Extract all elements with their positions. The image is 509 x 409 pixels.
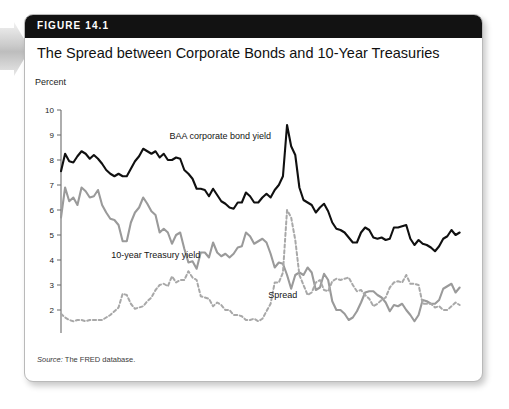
- y-tick-label: 1: [50, 331, 55, 333]
- y-tick-label: 10: [45, 106, 54, 115]
- source-prefix: Source:: [37, 355, 63, 364]
- line-chart: 12345678910199520002005201020152020YearB…: [25, 73, 483, 333]
- source-text: The FRED database.: [65, 355, 135, 364]
- series-label-1: 10-year Treasury yield: [111, 250, 200, 260]
- series-label-2: Spread: [268, 290, 297, 300]
- chart-plot: 12345678910199520002005201020152020YearB…: [25, 73, 483, 333]
- series-label-0: BAA corporate bond yield: [170, 131, 272, 141]
- page-title: The Spread between Corporate Bonds and 1…: [37, 45, 440, 61]
- figure-card: FIGURE 14.1 The Spread between Corporate…: [24, 14, 483, 382]
- y-tick-label: 5: [50, 231, 55, 240]
- figure-number-label: FIGURE 14.1: [37, 20, 109, 31]
- y-tick-label: 4: [50, 256, 55, 265]
- y-tick-label: 6: [50, 206, 55, 215]
- y-tick-label: 3: [50, 281, 55, 290]
- source-note: Source: The FRED database.: [37, 355, 135, 364]
- y-tick-label: 2: [50, 306, 55, 315]
- y-tick-label: 7: [50, 181, 55, 190]
- y-tick-label: 8: [50, 156, 55, 165]
- y-tick-label: 9: [50, 131, 55, 140]
